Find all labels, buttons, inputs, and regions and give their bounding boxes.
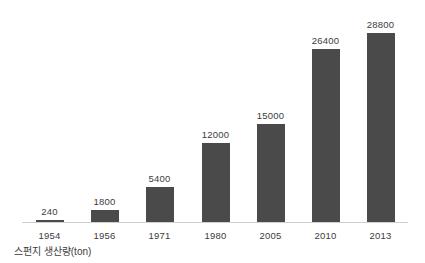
bar-value-label-1980: 12000 xyxy=(202,130,229,140)
bar-chart-figure: 2401800540012000150002640028800 19541956… xyxy=(0,0,425,263)
bar-2013 xyxy=(367,33,395,222)
bar-1956 xyxy=(91,210,119,222)
bar-group-1980: 12000 xyxy=(188,8,243,222)
bar-value-label-1971: 5400 xyxy=(149,174,171,184)
bar-value-label-1954: 240 xyxy=(41,207,57,217)
bar-value-label-1956: 1800 xyxy=(94,197,116,207)
x-tick-1980: 1980 xyxy=(188,229,243,243)
bar-1971 xyxy=(146,187,174,222)
bar-2010 xyxy=(312,49,340,222)
x-tick-1971: 1971 xyxy=(132,229,187,243)
bar-value-label-2010: 26400 xyxy=(312,36,339,46)
x-tick-2005: 2005 xyxy=(243,229,298,243)
bar-group-1954: 240 xyxy=(22,8,77,222)
x-tick-1954: 1954 xyxy=(22,229,77,243)
bar-1980 xyxy=(202,143,230,222)
bar-group-2013: 28800 xyxy=(353,8,408,222)
bar-group-2005: 15000 xyxy=(243,8,298,222)
bar-2005 xyxy=(257,124,285,222)
x-tick-2010: 2010 xyxy=(298,229,353,243)
bar-value-label-2013: 28800 xyxy=(367,20,394,30)
bar-group-1956: 1800 xyxy=(77,8,132,222)
x-tick-2013: 2013 xyxy=(353,229,408,243)
bar-value-label-2005: 15000 xyxy=(257,111,284,121)
bar-group-2010: 26400 xyxy=(298,8,353,222)
bar-group-1971: 5400 xyxy=(132,8,187,222)
x-tick-1956: 1956 xyxy=(77,229,132,243)
chart-caption: 스펀지 생산량(ton) xyxy=(14,246,91,258)
x-axis-line xyxy=(22,222,408,223)
plot-area: 2401800540012000150002640028800 xyxy=(22,8,408,222)
x-axis-tick-labels: 1954195619711980200520102013 xyxy=(22,229,408,243)
